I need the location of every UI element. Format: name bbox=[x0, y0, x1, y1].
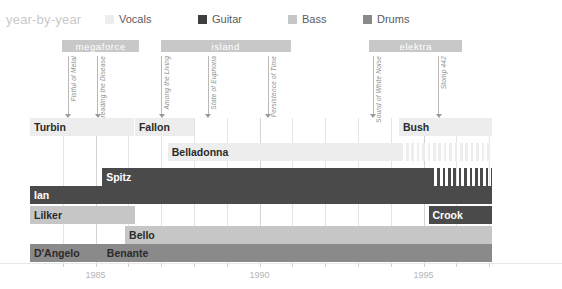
timeline-bar-fallon[interactable]: Fallon bbox=[135, 118, 194, 136]
hatch-stripe bbox=[438, 143, 441, 161]
timeline-bar-crook[interactable]: Crook bbox=[429, 206, 493, 224]
legend-swatch-icon bbox=[363, 15, 372, 24]
hatch-stripe bbox=[482, 143, 485, 161]
legend-label: Bass bbox=[302, 13, 326, 25]
timeline-bar-continuation[interactable] bbox=[432, 168, 493, 186]
legend-item-vocals[interactable]: Vocals bbox=[105, 13, 151, 25]
timeline-bar-turbin[interactable]: Turbin bbox=[30, 118, 134, 136]
record-label-text: megaforce bbox=[76, 41, 126, 52]
hatch-stripe bbox=[411, 143, 414, 161]
hatch-stripe bbox=[406, 143, 409, 161]
timeline-bar-bush[interactable]: Bush bbox=[399, 118, 492, 136]
hatch-stripe bbox=[455, 143, 458, 161]
member-name: Turbin bbox=[30, 122, 66, 133]
timeline-bar-bello[interactable]: Bello bbox=[125, 226, 492, 244]
timeline-row: LilkerCrook bbox=[30, 206, 558, 224]
bottom-rule bbox=[0, 263, 562, 264]
timeline-row: TurbinFallonBush bbox=[30, 118, 558, 136]
member-name: Benante bbox=[103, 248, 148, 259]
record-label-megaforce: megaforce bbox=[62, 40, 139, 52]
timeline-row: Belladonna bbox=[30, 143, 558, 161]
record-label-text: elektra bbox=[400, 41, 433, 52]
album-marker-line bbox=[68, 56, 69, 116]
hatch-stripe bbox=[449, 143, 452, 161]
member-name: D'Angelo bbox=[30, 248, 80, 259]
hatch-stripe bbox=[401, 143, 404, 161]
album-marker-line bbox=[373, 56, 374, 116]
hatch-stripe bbox=[491, 168, 492, 186]
legend-item-drums[interactable]: Drums bbox=[363, 13, 409, 25]
legend-label: Guitar bbox=[212, 13, 242, 25]
hatch-stripe bbox=[417, 143, 420, 161]
hatch-stripe bbox=[459, 168, 462, 186]
member-name: Bello bbox=[125, 230, 155, 241]
album-title: Persistence of Time bbox=[270, 56, 277, 117]
hatch-stripe bbox=[422, 143, 425, 161]
member-name: Spitz bbox=[102, 172, 131, 183]
timeline-row: Ian bbox=[30, 186, 558, 204]
hatch-stripe bbox=[487, 143, 490, 161]
hatch-stripe bbox=[432, 168, 435, 186]
legend-swatch-icon bbox=[105, 15, 114, 24]
timeline-bar-benante[interactable]: Benante bbox=[103, 244, 493, 262]
album-title: Sound of White Noise bbox=[375, 56, 382, 123]
page-title: year-by-year bbox=[6, 12, 81, 27]
member-name: Belladonna bbox=[168, 147, 229, 158]
member-name: Ian bbox=[30, 190, 49, 201]
timeline-row: Bello bbox=[30, 226, 558, 244]
album-title: State of Euphoria bbox=[210, 56, 217, 110]
legend-item-bass[interactable]: Bass bbox=[288, 13, 326, 25]
hatch-stripe bbox=[428, 143, 431, 161]
timeline-bar-spitz[interactable]: Spitz bbox=[102, 168, 432, 186]
axis-tick-label: 1990 bbox=[250, 270, 270, 280]
legend-label: Vocals bbox=[119, 13, 151, 25]
timeline-row: D'AngeloBenante bbox=[30, 244, 558, 262]
timeline-bar-ian[interactable]: Ian bbox=[30, 186, 492, 204]
legend-swatch-icon bbox=[288, 15, 297, 24]
record-label-text: island bbox=[211, 41, 239, 52]
album-title: Spreading the Disease bbox=[99, 56, 106, 126]
hatch-stripe bbox=[453, 168, 456, 186]
timeline-plot: 198519901995 TurbinFallonBushBelladonnaS… bbox=[30, 118, 558, 263]
member-name: Crook bbox=[429, 210, 463, 221]
timeline-bar-belladonna[interactable]: Belladonna bbox=[168, 143, 401, 161]
hatch-stripe bbox=[437, 168, 440, 186]
member-name: Bush bbox=[399, 122, 429, 133]
hatch-stripe bbox=[443, 168, 446, 186]
hatch-stripe bbox=[475, 168, 478, 186]
record-label-elektra: elektra bbox=[369, 40, 462, 52]
album-marker-line bbox=[208, 56, 209, 116]
hatch-stripe bbox=[470, 168, 473, 186]
hatch-stripe bbox=[465, 143, 468, 161]
album-title: Stomp 442 bbox=[440, 56, 447, 89]
timeline-bar-continuation[interactable] bbox=[401, 143, 493, 161]
hatch-stripe bbox=[486, 168, 489, 186]
legend-label: Drums bbox=[377, 13, 409, 25]
legend-swatch-icon bbox=[198, 15, 207, 24]
hatch-stripe bbox=[464, 168, 467, 186]
axis-tick-label: 1985 bbox=[86, 270, 106, 280]
timeline-bar-dangelo[interactable]: D'Angelo bbox=[30, 244, 103, 262]
hatch-stripe bbox=[471, 143, 474, 161]
album-title: Fistful of Metal bbox=[70, 56, 77, 101]
hatch-stripe bbox=[444, 143, 447, 161]
chart-canvas: year-by-year VocalsGuitarBassDrums megaf… bbox=[0, 0, 562, 289]
hatch-stripe bbox=[476, 143, 479, 161]
record-label-island: island bbox=[161, 40, 291, 52]
hatch-stripe bbox=[460, 143, 463, 161]
hatch-stripe bbox=[433, 143, 436, 161]
album-marker-line bbox=[268, 56, 269, 116]
timeline-bar-lilker[interactable]: Lilker bbox=[30, 206, 135, 224]
hatch-stripe bbox=[448, 168, 451, 186]
album-title: Among the Living bbox=[163, 56, 170, 109]
legend-item-guitar[interactable]: Guitar bbox=[198, 13, 242, 25]
member-name: Lilker bbox=[30, 210, 62, 221]
hatch-stripe bbox=[480, 168, 483, 186]
axis-tick-label: 1995 bbox=[414, 270, 434, 280]
timeline-row: Spitz bbox=[30, 168, 558, 186]
member-name: Fallon bbox=[135, 122, 170, 133]
